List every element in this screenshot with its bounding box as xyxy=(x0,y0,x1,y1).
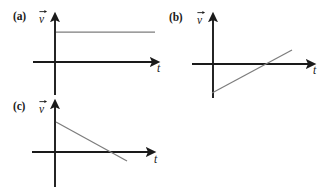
panel-a-x-axis-label: t xyxy=(157,62,160,74)
panel-a-graph xyxy=(33,20,155,95)
panel-b-y-axis-label-text: v xyxy=(197,14,202,26)
panel-c-label: (c) xyxy=(13,100,25,112)
velocity-time-graphs-figure: (a) v t (b) v t (c) v xyxy=(0,0,327,187)
panel-b-data-line xyxy=(212,50,292,93)
panel-c-y-axis-label-text: v xyxy=(39,103,44,115)
panel-c-x-axis-label: t xyxy=(154,153,157,165)
panel-b-y-axis-label: v xyxy=(197,11,202,26)
panel-b-x-axis-label: t xyxy=(313,64,316,76)
panel-c-y-axis-label: v xyxy=(39,100,44,115)
panel-b-graph xyxy=(192,20,308,98)
panel-a-y-axis-label-text: v xyxy=(39,13,44,25)
figure-canvas xyxy=(0,0,327,187)
panel-b-label: (b) xyxy=(169,11,182,23)
panel-a-y-axis-label: v xyxy=(39,10,44,25)
panel-c-data-line xyxy=(56,122,127,161)
panel-c-graph xyxy=(32,107,148,187)
panel-a-label: (a) xyxy=(13,10,26,22)
